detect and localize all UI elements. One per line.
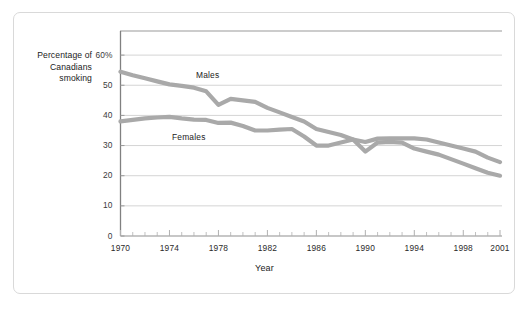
y-tick-label-40: 40 (81, 110, 113, 120)
y-tick-label-10: 10 (81, 200, 113, 210)
series-label-males: Males (196, 70, 219, 80)
y-tick-label-0: 0 (81, 231, 113, 241)
x-tick-label-2001: 2001 (480, 243, 520, 253)
chart-figure: Percentage of Canadians smoking Males Fe… (0, 0, 529, 309)
x-tick-label-1970: 1970 (101, 243, 141, 253)
y-tick-label-60: 60% (81, 50, 113, 60)
y-tick-label-30: 30 (81, 140, 113, 150)
x-tick-label-1978: 1978 (198, 243, 238, 253)
x-axis-title: Year (0, 263, 529, 273)
series-line-males (121, 72, 501, 176)
y-tick-label-50: 50 (81, 80, 113, 90)
x-tick-label-1994: 1994 (394, 243, 434, 253)
y-tick-label-20: 20 (81, 170, 113, 180)
x-tick-label-1986: 1986 (296, 243, 336, 253)
x-tick-label-1990: 1990 (345, 243, 385, 253)
x-tick-label-1998: 1998 (443, 243, 483, 253)
x-tick-label-1974: 1974 (149, 243, 189, 253)
x-tick-label-1982: 1982 (247, 243, 287, 253)
series-label-females: Females (172, 132, 206, 142)
